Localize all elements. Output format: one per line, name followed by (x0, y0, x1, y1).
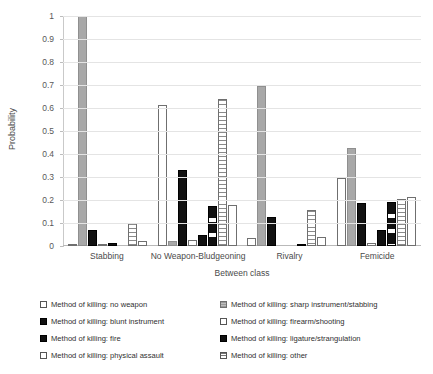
legend-swatch-open-icon (40, 352, 47, 359)
legend-item-label: Method of killing: sharp instrument/stab… (231, 300, 377, 309)
x-axis-tick-label: Stabbing (63, 251, 151, 267)
bar[interactable] (138, 241, 147, 246)
bar[interactable] (307, 210, 316, 246)
gridline (63, 177, 421, 178)
y-axis-tick-label: 0.8 (42, 58, 54, 67)
bar[interactable] (108, 243, 117, 246)
bar[interactable] (367, 243, 376, 246)
legend-item-label: Method of killing: physical assault (51, 351, 164, 360)
bar[interactable] (347, 148, 356, 246)
bar[interactable] (387, 202, 396, 246)
gridline (63, 131, 421, 132)
legend-swatch-dash-icon (220, 335, 227, 342)
gridline (63, 39, 421, 40)
gridline (63, 62, 421, 63)
y-axis-tick-label: 0.2 (42, 196, 54, 205)
bar[interactable] (208, 206, 217, 246)
bar[interactable] (168, 241, 177, 246)
x-axis-tick-label: Rivalry (246, 251, 334, 267)
y-axis-tick-label: 0.5 (42, 127, 54, 136)
gridline (63, 200, 421, 201)
bar[interactable] (88, 230, 97, 246)
bar[interactable] (98, 244, 107, 246)
y-axis-tick-label: 0.7 (42, 81, 54, 90)
bar[interactable] (267, 217, 276, 246)
bar[interactable] (68, 244, 77, 246)
legend-swatch-open-icon (220, 318, 227, 325)
x-axis-title: Between class (63, 268, 421, 278)
legend-item[interactable]: Method of killing: no weapon (40, 300, 220, 309)
y-axis-tick-label: 0.3 (42, 173, 54, 182)
gridline (63, 85, 421, 86)
legend-item[interactable]: Method of killing: fire (40, 334, 220, 343)
y-axis-title: Probability (7, 108, 17, 150)
gridline (63, 154, 421, 155)
x-axis-tick-label: Femicide (333, 251, 421, 267)
y-axis: Probability 00.10.20.30.40.50.60.70.80.9… (0, 0, 60, 262)
plot-area (63, 16, 421, 246)
bar[interactable] (188, 240, 197, 246)
bar[interactable] (337, 178, 346, 246)
legend-swatch-open-icon (40, 301, 47, 308)
legend-swatch-black-icon (40, 335, 47, 342)
bar[interactable] (317, 237, 326, 246)
bar[interactable] (407, 197, 416, 246)
bar[interactable] (128, 223, 137, 246)
legend-swatch-black-icon (40, 318, 47, 325)
bar[interactable] (178, 170, 187, 246)
legend-swatch-gray-icon (220, 301, 227, 308)
y-axis-tick-label: 0.4 (42, 150, 54, 159)
gridline (63, 16, 421, 17)
bar[interactable] (377, 230, 386, 246)
chart-legend: Method of killing: no weaponMethod of ki… (40, 296, 415, 364)
legend-item[interactable]: Method of killing: sharp instrument/stab… (220, 300, 415, 309)
legend-item[interactable]: Method of killing: firearm/shooting (220, 317, 415, 326)
legend-swatch-hatch-icon (220, 352, 227, 359)
probability-bar-chart: Probability 00.10.20.30.40.50.60.70.80.9… (0, 0, 433, 374)
bar[interactable] (297, 244, 306, 246)
x-axis-tick-label: No Weapon-Bludgeoning (151, 251, 246, 267)
legend-item-label: Method of killing: no weapon (51, 300, 147, 309)
legend-item[interactable]: Method of killing: ligature/strangulatio… (220, 334, 415, 343)
legend-item[interactable]: Method of killing: physical assault (40, 351, 220, 360)
gridline (63, 108, 421, 109)
y-axis-tick-label: 0.1 (42, 219, 54, 228)
gridline (63, 223, 421, 224)
y-axis-tick-label: 1 (49, 12, 54, 21)
legend-item-label: Method of killing: fire (51, 334, 121, 343)
bar[interactable] (247, 238, 256, 246)
y-axis-tick-label: 0.6 (42, 104, 54, 113)
bar[interactable] (357, 203, 366, 246)
bar[interactable] (198, 235, 207, 247)
legend-item-label: Method of killing: firearm/shooting (231, 317, 345, 326)
legend-item[interactable]: Method of killing: other (220, 351, 415, 360)
legend-item-label: Method of killing: ligature/strangulatio… (231, 334, 361, 343)
legend-item[interactable]: Method of killing: blunt instrument (40, 317, 220, 326)
y-axis-tick-label: 0.9 (42, 35, 54, 44)
legend-item-label: Method of killing: other (231, 351, 307, 360)
legend-item-label: Method of killing: blunt instrument (51, 317, 164, 326)
bar[interactable] (228, 205, 237, 246)
y-axis-tick-label: 0 (49, 242, 54, 251)
x-axis-labels: StabbingNo Weapon-BludgeoningRivalryFemi… (63, 251, 421, 267)
bar[interactable] (158, 105, 167, 246)
